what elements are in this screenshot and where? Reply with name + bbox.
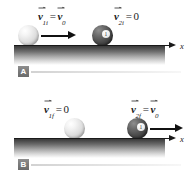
velocity-arrow-shaft bbox=[150, 128, 176, 130]
equals-sign: = bbox=[141, 103, 150, 115]
target-ball: 1 bbox=[92, 25, 113, 46]
equals-sign: = bbox=[48, 10, 57, 22]
velocity-arrow-shaft bbox=[41, 35, 69, 37]
velocity-label-1f: v1f=0 bbox=[44, 103, 69, 118]
ball-number-label: 1 bbox=[137, 123, 146, 132]
velocity-value-subscript-0: 0 bbox=[62, 19, 66, 27]
vector-arrow-overbar-icon bbox=[44, 98, 53, 103]
vector-arrow-overbar-icon bbox=[38, 5, 47, 10]
velocity-label-2f: v2f=v0 bbox=[131, 103, 159, 118]
equals-sign: = bbox=[124, 10, 133, 22]
ball-number-label: 1 bbox=[102, 30, 111, 39]
panel-divider-rule bbox=[31, 71, 181, 73]
vector-arrow-overbar-icon bbox=[114, 5, 123, 10]
velocity-label-1i: v1i=v0 bbox=[38, 10, 66, 25]
panel-b: v1f=0 v2f=v0 1 x B bbox=[0, 90, 195, 180]
velocity-subscript-1f: 1f bbox=[48, 112, 53, 120]
vector-arrow-overbar-icon bbox=[150, 98, 159, 103]
cue-ball bbox=[18, 25, 39, 46]
panel-badge-b: B bbox=[18, 159, 29, 170]
panel-a: v1i=v0 v2i=0 1 x A bbox=[0, 0, 195, 90]
panel-divider-rule bbox=[31, 164, 181, 166]
panel-badge-a: A bbox=[18, 66, 29, 77]
x-axis-label: x bbox=[180, 41, 184, 51]
velocity-value-subscript-0: 0 bbox=[155, 112, 159, 120]
x-axis-arrow-icon bbox=[169, 135, 176, 141]
ground-surface bbox=[14, 46, 165, 65]
velocity-subscript-1i: 1i bbox=[42, 19, 47, 27]
vector-arrow-overbar-icon bbox=[57, 5, 66, 10]
x-axis-line bbox=[14, 45, 170, 46]
x-axis-arrow-icon bbox=[169, 42, 176, 48]
x-axis-line bbox=[14, 138, 170, 139]
equals-sign: = bbox=[54, 103, 63, 115]
velocity-label-2i: v2i=0 bbox=[114, 10, 139, 25]
target-ball: 1 bbox=[127, 118, 148, 139]
velocity-arrow-head-icon bbox=[68, 31, 76, 39]
ground-surface bbox=[14, 139, 165, 158]
velocity-value-zero: 0 bbox=[134, 10, 140, 22]
velocity-subscript-2i: 2i bbox=[118, 19, 123, 27]
velocity-arrow-head-icon bbox=[175, 124, 183, 132]
x-axis-label: x bbox=[180, 134, 184, 144]
cue-ball bbox=[64, 118, 85, 139]
vector-arrow-overbar-icon bbox=[131, 98, 140, 103]
velocity-value-zero: 0 bbox=[64, 103, 70, 115]
